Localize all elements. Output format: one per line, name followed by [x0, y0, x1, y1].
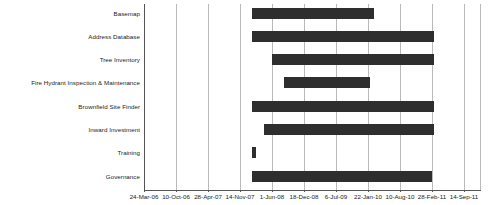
x-axis-tick-mark — [432, 190, 433, 192]
gridline — [480, 4, 481, 190]
x-axis-line — [144, 190, 481, 191]
gantt-bar — [264, 124, 434, 135]
x-axis-tick-mark — [336, 190, 337, 192]
x-axis-tick-mark — [240, 190, 241, 192]
x-axis-tick-mark — [304, 190, 305, 192]
category-label: Inward Investment — [0, 126, 140, 134]
x-axis-tick-label: 14-Sep-11 — [450, 192, 479, 201]
category-label: Basemap — [0, 10, 140, 18]
x-axis-tick-mark — [176, 190, 177, 192]
x-axis-tick-label-list: 24-Mar-0610-Oct-0628-Apr-0714-Nov-071-Ju… — [0, 192, 492, 204]
gantt-bar — [252, 101, 434, 112]
x-axis-tick-label: 28-Apr-07 — [194, 192, 222, 201]
gridline — [208, 4, 209, 190]
x-axis-tick-mark — [400, 190, 401, 192]
x-axis-tick-mark — [272, 190, 273, 192]
gantt-bar — [272, 54, 434, 65]
x-axis-tick-label: 10-Oct-06 — [162, 192, 190, 201]
gridline — [240, 4, 241, 190]
category-label: Fire Hydrant Inspection & Maintenance — [0, 79, 140, 87]
gantt-bar — [284, 77, 370, 88]
x-axis-tick-mark — [464, 190, 465, 192]
gridline — [176, 4, 177, 190]
x-axis-tick-label: 24-Mar-06 — [130, 192, 159, 201]
x-axis-tick-label: 22-Jan-10 — [354, 192, 382, 201]
category-label: Governance — [0, 173, 140, 181]
x-axis-tick-label: 10-Aug-10 — [385, 192, 414, 201]
category-label: Brownfield Site Finder — [0, 103, 140, 111]
category-label: Address Database — [0, 33, 140, 41]
gantt-bar — [252, 8, 374, 19]
y-axis-line — [144, 4, 145, 190]
x-axis-tick-label: 18-Dec-08 — [289, 192, 318, 201]
category-label: Tree Inventory — [0, 56, 140, 64]
gantt-bar — [252, 31, 434, 42]
x-axis-tick-label: 6-Jul-09 — [325, 192, 348, 201]
category-label: Training — [0, 149, 140, 157]
category-label-list: BasemapAddress DatabaseTree InventoryFir… — [0, 4, 140, 190]
x-axis-tick-mark — [144, 190, 145, 192]
gantt-chart: BasemapAddress DatabaseTree InventoryFir… — [0, 0, 492, 205]
gantt-bar — [252, 147, 256, 158]
plot-area — [144, 4, 480, 190]
x-axis-tick-mark — [368, 190, 369, 192]
gantt-bar — [252, 171, 432, 182]
gridline — [464, 4, 465, 190]
x-axis-tick-label: 14-Nov-07 — [225, 192, 254, 201]
x-axis-tick-mark — [208, 190, 209, 192]
x-axis-tick-label: 1-Jun-08 — [260, 192, 285, 201]
x-axis-tick-label: 28-Feb-11 — [418, 192, 446, 201]
